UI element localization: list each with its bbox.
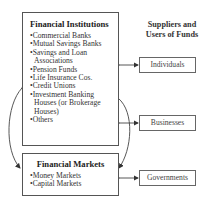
financial-institutions-box: Financial Institutions •Commercial Banks… (22, 12, 119, 146)
financial-markets-title: Financial Markets (30, 159, 111, 169)
financial-markets-box: Financial Markets •Money Markets •Capita… (22, 153, 119, 196)
institution-item: •Others (30, 116, 118, 124)
businesses-box: Businesses (139, 115, 196, 131)
suppliers-users-header: Suppliers and Users of Funds (136, 20, 208, 39)
governments-box: Governments (139, 170, 196, 186)
individuals-box: Individuals (139, 57, 196, 73)
financial-institutions-title: Financial Institutions (30, 19, 118, 29)
market-item: •Capital Markets (30, 180, 118, 188)
